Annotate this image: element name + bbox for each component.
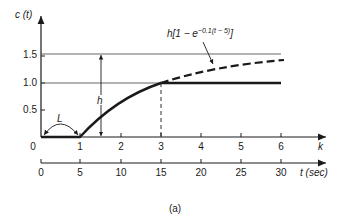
- L-arc: [44, 124, 78, 135]
- t-tick-20: 20: [195, 167, 207, 178]
- y-axis-label: c (t): [15, 9, 32, 20]
- k-tick-4: 4: [198, 141, 204, 152]
- t-tick-15: 15: [155, 167, 167, 178]
- t-axis-label: t (sec): [300, 167, 328, 178]
- y-tick-0.5: 0.5: [23, 104, 37, 115]
- k-tick-6: 6: [278, 141, 284, 152]
- t-tick-30: 30: [275, 167, 287, 178]
- figure-caption: (a): [169, 203, 181, 214]
- h-label: h: [97, 95, 103, 106]
- k-tick-3: 3: [158, 141, 164, 152]
- curve-formula-label: h[1 − e−0.1(t − 5)]: [167, 27, 233, 39]
- k-tick-5: 5: [238, 141, 244, 152]
- t-tick-25: 25: [235, 167, 247, 178]
- k-tick-0: 0: [30, 141, 36, 152]
- label-pointer-arrow: [203, 42, 213, 64]
- k-axis-label: k: [318, 141, 324, 152]
- t-tick-5: 5: [77, 167, 83, 178]
- k-tick-2: 2: [118, 141, 124, 152]
- y-tick-1.5: 1.5: [23, 49, 37, 60]
- y-tick-1.0: 1.0: [23, 77, 37, 88]
- t-tick-0: 0: [38, 167, 44, 178]
- exponential-dashed-curve: [161, 60, 284, 83]
- step-response-diagram: 0.5 1.0 1.5 c (t) 0 1 2 3 4 5 6 k 0 5 10…: [0, 0, 342, 218]
- t-tick-10: 10: [115, 167, 127, 178]
- L-label: L: [57, 113, 63, 124]
- k-tick-1: 1: [77, 141, 83, 152]
